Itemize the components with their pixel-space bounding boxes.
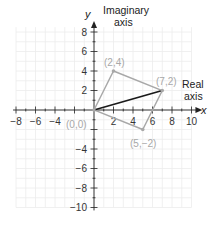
x-axis-title-line1: Real [182,78,204,90]
y-tick-label: 4 [81,66,87,77]
x-axis-title-line2: axis [184,90,203,102]
vertex-dot [112,69,116,73]
y-tick-label: 8 [81,27,87,38]
x-tick-label: 6 [150,116,156,127]
x-tick-label: 10 [186,116,198,127]
y-tick-label: 6 [81,46,87,57]
point-label-5-neg2: (5,−2) [130,138,156,149]
y-axis-title-line2: axis [114,16,133,28]
vertex-dot [160,89,164,93]
y-axis-title-line1: Imaginary [103,4,150,16]
x-tick-label: −4 [49,116,61,127]
x-tick-label: −6 [30,116,42,127]
y-tick-label: −4 [76,144,88,155]
y-tick-label: −8 [76,183,88,194]
y-tick-label: −6 [76,163,88,174]
complex-plane-diagram: −8−6−42468108642−4−6−8−10 y Imaginary ax… [0,0,212,229]
point-label-2-4: (2,4) [104,57,125,68]
x-tick-label: 8 [169,116,175,127]
y-tick-label: −10 [70,202,87,213]
point-label-origin: (0,0) [66,119,87,130]
y-axis-variable: y [84,8,92,20]
point-label-7-2: (7,2) [156,76,177,87]
x-axis-variable: x [200,104,207,116]
x-tick-label: −8 [10,116,22,127]
vertex-dot [92,108,96,112]
y-tick-label: 2 [81,85,87,96]
vertex-dot [141,128,145,132]
y-axis-arrow-icon [91,21,97,28]
grid [16,27,192,207]
axes: −8−6−42468108642−4−6−8−10 [10,21,202,213]
